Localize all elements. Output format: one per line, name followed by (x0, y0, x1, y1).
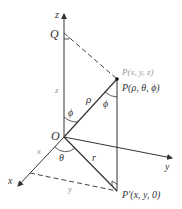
y-dashed (30, 173, 117, 191)
spherical-coordinates-diagram: z Q z P(x, y, z) P(ρ, θ, ϕ) ρ ϕ ϕ O x θ … (0, 0, 182, 209)
theta-label: θ (59, 152, 64, 163)
q-to-p-dashed (64, 33, 117, 79)
phi-arc-p (105, 92, 117, 97)
r-segment (64, 137, 117, 191)
origin-label: O (51, 129, 60, 143)
z-length-label: z (54, 85, 59, 95)
phi-o-label: ϕ (68, 107, 73, 118)
theta-arc (55, 147, 75, 152)
right-angle-q (64, 37, 69, 39)
p-prime-label: P′(x, y, 0) (121, 189, 161, 201)
p-cartesian-label: P(x, y, z) (121, 67, 154, 77)
y-axis (64, 137, 172, 158)
phi-p-label: ϕ (103, 98, 108, 109)
y-axis-label: y (164, 161, 170, 172)
p-spherical-label: P(ρ, θ, ϕ) (121, 82, 160, 94)
rho-label: ρ (85, 93, 91, 105)
x-length-label: x (36, 146, 41, 156)
r-label: r (92, 152, 96, 163)
point-p (115, 77, 119, 81)
q-label: Q (50, 27, 59, 41)
z-axis-label: z (54, 9, 59, 20)
x-axis-label: x (7, 175, 13, 186)
y-length-label: y (67, 184, 72, 194)
right-angle-pprime (112, 181, 117, 186)
